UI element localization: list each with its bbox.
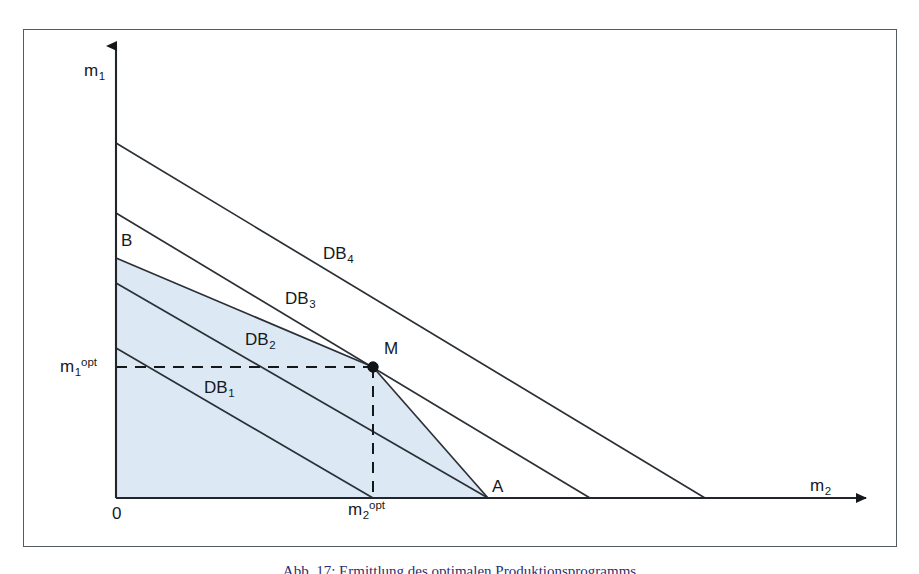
point-label-a: A [492, 478, 503, 495]
x-optimum-tick-label: m2opt [348, 501, 385, 518]
optimum-point-marker [368, 362, 378, 372]
x-axis-label-sub: 2 [825, 485, 831, 497]
x-axis-label-base: m [810, 476, 824, 495]
figure-canvas [0, 0, 919, 574]
isoline-label-db1-base: DB [204, 378, 228, 397]
x-optimum-base: m [348, 500, 362, 519]
isoline-label-db1: DB1 [204, 379, 234, 396]
x-axis-label: m2 [810, 477, 831, 494]
y-axis-label-base: m [84, 61, 98, 80]
y-optimum-sup: opt [81, 356, 97, 368]
isoline-label-db3-base: DB [285, 289, 309, 308]
isoline-label-db4: DB4 [323, 245, 353, 262]
point-label-m: M [384, 340, 398, 357]
figure-caption: Abb. 17: Ermittlung des optimalen Produk… [0, 563, 919, 574]
y-axis-label-sub: 1 [99, 70, 105, 82]
y-optimum-tick-label: m1opt [60, 358, 97, 375]
x-optimum-sup: opt [369, 499, 385, 511]
isoline-label-db4-sub: 4 [347, 253, 353, 265]
isoline-label-db2-base: DB [245, 330, 269, 349]
point-label-b: B [121, 232, 132, 249]
figure-root: m1 m2 0 B M A DB1 DB2 DB3 DB4 m1opt m2op… [0, 0, 919, 574]
origin-label: 0 [112, 505, 121, 522]
y-optimum-base: m [60, 357, 74, 376]
y-axis-label: m1 [84, 62, 105, 79]
isoline-label-db3: DB3 [285, 290, 315, 307]
isoline-label-db3-sub: 3 [309, 298, 315, 310]
isoline-label-db1-sub: 1 [228, 387, 234, 399]
isoline-label-db2: DB2 [245, 331, 275, 348]
isoline-label-db4-base: DB [323, 244, 347, 263]
isoline-label-db2-sub: 2 [269, 339, 275, 351]
